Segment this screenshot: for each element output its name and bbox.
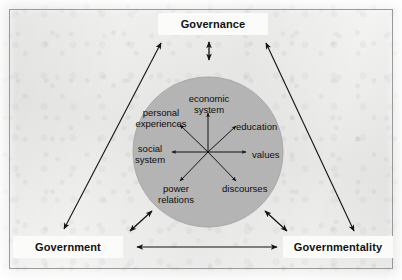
radial-label-social-system: social system [126, 144, 174, 165]
radial-label-power-relations: power relations [150, 184, 202, 205]
node-box-government[interactable]: Government [13, 236, 123, 258]
connector-governmentality-to-circle [265, 211, 287, 231]
radial-label-personal-experiences-line2: experiences [126, 119, 196, 130]
radial-label-personal-experiences: personal experiences [126, 108, 196, 129]
radial-label-social-system-line1: social [126, 144, 174, 155]
connector-government-to-circle [130, 211, 152, 231]
radial-label-education: education [236, 122, 292, 133]
radial-label-power-relations-line2: relations [150, 195, 202, 206]
figure-canvas: Governance Government Governmentality ec… [0, 0, 402, 280]
radial-label-values-line1: values [252, 150, 296, 161]
radial-label-power-relations-line1: power [150, 184, 202, 195]
radial-label-economic-system-line1: economic [178, 94, 240, 105]
radial-label-discourses-line1: discourses [222, 184, 284, 195]
node-box-government-label: Government [35, 241, 101, 253]
node-box-governmentality-label: Governmentality [294, 241, 382, 253]
radial-label-values: values [252, 150, 296, 161]
radial-label-discourses: discourses [222, 184, 284, 195]
radial-label-education-line1: education [236, 122, 292, 133]
node-box-governmentality[interactable]: Governmentality [283, 236, 393, 258]
radial-label-social-system-line2: system [126, 155, 174, 166]
radial-label-personal-experiences-line1: personal [126, 108, 196, 119]
node-box-governance-label: Governance [181, 18, 246, 30]
node-box-governance[interactable]: Governance [158, 13, 268, 35]
